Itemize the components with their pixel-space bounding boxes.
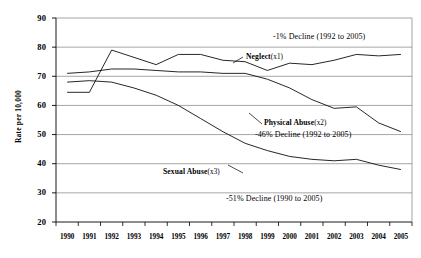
series-label-sexual-abuse-text: Sexual Abuse — [163, 167, 207, 176]
series-line-1 — [67, 69, 401, 132]
annotation-neglect-decline: -1% Decline (1992 to 2005) — [273, 32, 365, 41]
y-axis-ticks — [52, 18, 56, 222]
series-label-sexual-abuse: Sexual Abuse(x3) — [163, 167, 220, 176]
leader-line-physical — [249, 113, 262, 124]
gridlines — [56, 18, 412, 193]
series-line-0 — [67, 50, 401, 92]
series-label-neglect-multiplier: (x1) — [271, 53, 283, 61]
series-label-physical-abuse-multiplier: (x2) — [314, 119, 326, 127]
axis-lines — [56, 18, 412, 222]
leader-lines — [228, 57, 262, 173]
series-line-2 — [67, 81, 401, 170]
leader-line-neglect — [233, 57, 243, 63]
series-label-physical-abuse-text: Physical Abuse — [264, 118, 314, 127]
annotation-sexual-decline: -51% Decline (1990 to 2005) — [226, 194, 322, 203]
series-label-sexual-abuse-multiplier: (x3) — [207, 168, 219, 176]
leader-line-sexual — [228, 165, 243, 173]
x-axis-ticks — [56, 222, 412, 226]
annotation-physical-decline: -46% Decline (1992 to 2005) — [255, 130, 351, 139]
series-lines — [67, 50, 401, 169]
series-label-physical-abuse: Physical Abuse(x2) — [264, 118, 327, 127]
series-label-neglect-text: Neglect — [246, 52, 271, 61]
chart-container: Rate per 10,000 2030405060708090 1990199… — [0, 0, 421, 258]
series-label-neglect: Neglect(x1) — [246, 52, 283, 61]
